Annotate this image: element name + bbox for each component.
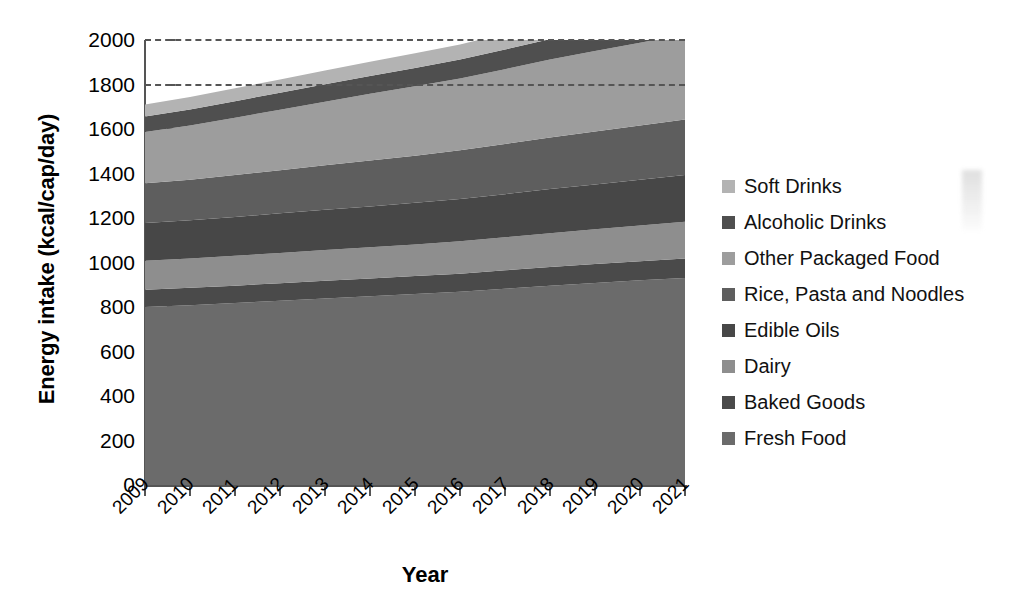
gridline [145,39,685,41]
legend-item-label: Alcoholic Drinks [744,212,886,232]
legend-item[interactable]: Rice, Pasta and Noodles [722,276,1022,312]
legend-swatch-icon [722,360,735,373]
legend-item-label: Dairy [744,356,791,376]
y-tick-label: 1000 [43,252,135,273]
legend-item[interactable]: Baked Goods [722,384,1022,420]
chart-figure: Energy intake (kcal/cap/day) Year 020040… [0,0,1025,612]
y-tick-label: 800 [43,296,135,317]
y-tick-label: 1400 [43,163,135,184]
scan-artifact [962,170,982,230]
y-tick-label: 1600 [43,118,135,139]
y-tick-label: 2000 [43,29,135,50]
legend-swatch-icon [722,180,735,193]
gridline [145,84,685,86]
y-tick-label: 600 [43,341,135,362]
y-axis-tick-group: 0200400600800100012001400160018002000 [30,0,135,612]
stacked-area-svg [145,40,685,485]
legend-item-label: Rice, Pasta and Noodles [744,284,964,304]
y-tick-label: 1200 [43,207,135,228]
legend-item[interactable]: Fresh Food [722,420,1022,456]
legend-item[interactable]: Other Packaged Food [722,240,1022,276]
legend-item-label: Soft Drinks [744,176,842,196]
x-axis-title: Year [290,562,560,588]
y-tick-label: 200 [43,430,135,451]
legend-swatch-icon [722,432,735,445]
plot-area [145,40,685,485]
y-tick-label: 1800 [43,74,135,95]
legend-item-label: Other Packaged Food [744,248,940,268]
legend-item[interactable]: Edible Oils [722,312,1022,348]
legend-swatch-icon [722,288,735,301]
y-tick-label: 400 [43,385,135,406]
legend-item[interactable]: Dairy [722,348,1022,384]
legend-swatch-icon [722,216,735,229]
legend-item-label: Edible Oils [744,320,840,340]
legend-item-label: Fresh Food [744,428,846,448]
legend-swatch-icon [722,324,735,337]
area-series-fresh-food [145,278,685,485]
legend-item-label: Baked Goods [744,392,865,412]
legend-swatch-icon [722,396,735,409]
legend-swatch-icon [722,252,735,265]
